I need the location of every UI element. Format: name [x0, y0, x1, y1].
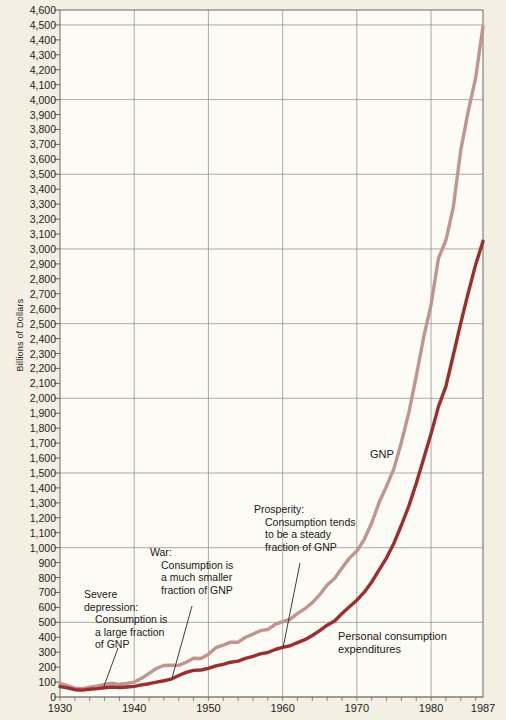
plot-area [0, 0, 506, 720]
gnp-consumption-line-chart: Billions of Dollars 4,6004,5004,4004,300… [0, 0, 506, 720]
annotation-heading: Prosperity: [254, 503, 355, 516]
gnp-label: GNP [370, 448, 394, 461]
annotation-war: War:Consumption is a much smaller fracti… [150, 546, 233, 596]
annotation-body: Consumption is a much smaller fraction o… [150, 559, 233, 597]
annotation-heading: War: [150, 546, 233, 559]
annotation-body: Consumption tends to be a steady fractio… [254, 516, 355, 554]
annotation-body: Consumption is a large fraction of GNP [84, 613, 167, 651]
annotation-prosperity: Prosperity:Consumption tends to be a ste… [254, 503, 355, 553]
y-axis-tick-marks [54, 10, 60, 697]
pce-label: Personal consumption expenditures [338, 630, 447, 656]
annotation-severe-depression: Severe depression:Consumption is a large… [84, 588, 167, 651]
